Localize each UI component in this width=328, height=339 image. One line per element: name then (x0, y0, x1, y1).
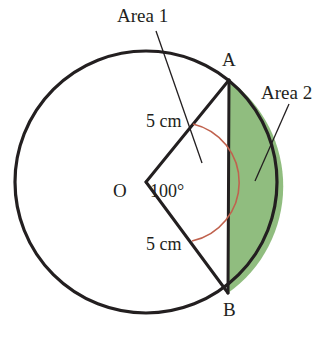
central-angle-label: 100° (150, 182, 184, 200)
area2-label: Area 2 (261, 83, 312, 102)
point-b-label: B (223, 300, 236, 319)
radius-oa-length-label: 5 cm (146, 112, 182, 130)
radius-oa-line (146, 80, 229, 182)
chord-ab-line (228, 80, 229, 293)
area1-label: Area 1 (117, 6, 168, 25)
geometry-diagram: Area 1 Area 2 A B O 5 cm 5 cm 100° (0, 0, 328, 339)
radius-ob-length-label: 5 cm (146, 235, 182, 253)
point-o-label: O (113, 181, 127, 200)
point-a-label: A (222, 50, 236, 69)
geometry-canvas (0, 0, 328, 339)
